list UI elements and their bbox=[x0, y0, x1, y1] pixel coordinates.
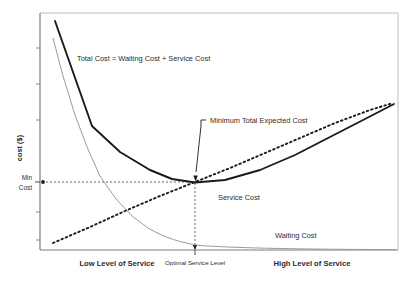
plot-frame bbox=[40, 13, 398, 250]
x-label-high-service: High Level of Service bbox=[274, 259, 351, 268]
x-label-low-service: Low Level of Service bbox=[79, 259, 154, 268]
y-tick-min-label: Min bbox=[22, 174, 33, 181]
chart-container: cost ($) Min Cost Total Cost = Waiting C… bbox=[0, 0, 410, 282]
minimum-callout-leader bbox=[193, 120, 206, 182]
service-cost-label: Service Cost bbox=[218, 193, 260, 202]
total-cost-equation-label: Total Cost = Waiting Cost + Service Cost bbox=[77, 54, 210, 63]
x-label-optimal-service: Optimal Service Level bbox=[165, 259, 225, 266]
cost-vs-service-level-chart: cost ($) Min Cost Total Cost = Waiting C… bbox=[0, 0, 410, 282]
waiting-cost-curve bbox=[53, 38, 396, 250]
y-axis-ticks bbox=[35, 48, 40, 240]
total-cost-curve bbox=[55, 21, 394, 183]
waiting-cost-label: Waiting Cost bbox=[275, 231, 317, 240]
y-axis-label: cost ($) bbox=[15, 134, 24, 161]
y-tick-cost-label: Cost bbox=[19, 184, 32, 191]
minimum-callout-label: Minimum Total Expected Cost bbox=[210, 116, 308, 125]
